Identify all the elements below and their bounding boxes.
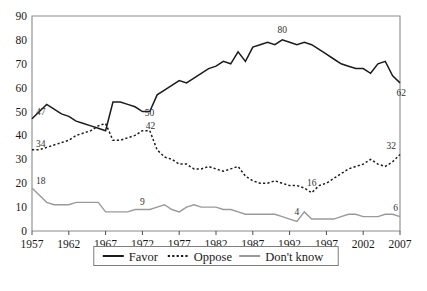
annotation-favor-1991: 80 [277, 25, 287, 35]
y-tick-label-50: 50 [16, 106, 28, 118]
x-tick-label-1962: 1962 [57, 238, 80, 250]
annotation-oppose-2007: 32 [387, 141, 397, 151]
chart-figure: 9080706050403020100 19571962196719721977… [0, 0, 427, 291]
figure-caption [0, 282, 427, 291]
y-axis-tick-labels: 9080706050403020100 [16, 10, 28, 237]
y-tick-label-30: 30 [16, 153, 28, 165]
y-tick-label-90: 90 [16, 10, 28, 22]
axis-tick-marks [32, 231, 400, 235]
x-tick-label-1957: 1957 [21, 238, 44, 250]
line-chart-svg: 9080706050403020100 19571962196719721977… [0, 0, 427, 291]
y-tick-label-10: 10 [16, 201, 28, 213]
data-series-group [32, 40, 400, 222]
series-line-oppose [32, 124, 400, 193]
legend-label-favor: Favor [129, 250, 159, 264]
annotation-favor-1972: 50 [145, 108, 155, 118]
x-tick-label-2007: 2007 [389, 238, 412, 250]
y-tick-label-0: 0 [21, 225, 27, 237]
legend-label-oppose: Oppose [194, 250, 233, 264]
y-tick-label-70: 70 [16, 58, 28, 70]
axis-frame [32, 16, 400, 231]
annotation-favor-1957: 47 [36, 107, 46, 117]
annotation-oppose-1957: 34 [36, 139, 46, 149]
annotation-oppose-1972: 42 [146, 121, 156, 131]
annotation-don-t-know-1972: 9 [140, 197, 145, 207]
annotation-don-t-know-1993: 4 [295, 207, 300, 217]
series-line-don-t-know [32, 188, 400, 221]
legend-label-don-t-know: Don't know [265, 250, 323, 264]
annotation-don-t-know-2007: 6 [393, 203, 398, 213]
annotation-don-t-know-1957: 18 [36, 176, 46, 186]
data-point-labels: 475080623442163218946 [36, 25, 406, 218]
plot-frame [32, 16, 400, 231]
y-tick-label-40: 40 [16, 129, 28, 141]
series-line-favor [32, 40, 400, 131]
chart-legend: FavorOpposeDon't know [94, 247, 338, 266]
y-tick-label-80: 80 [16, 34, 28, 46]
y-tick-label-60: 60 [16, 82, 28, 94]
y-tick-label-20: 20 [16, 177, 28, 189]
x-tick-label-2002: 2002 [352, 238, 375, 250]
annotation-oppose-1995: 16 [307, 178, 317, 188]
annotation-favor-2007: 62 [397, 88, 407, 98]
